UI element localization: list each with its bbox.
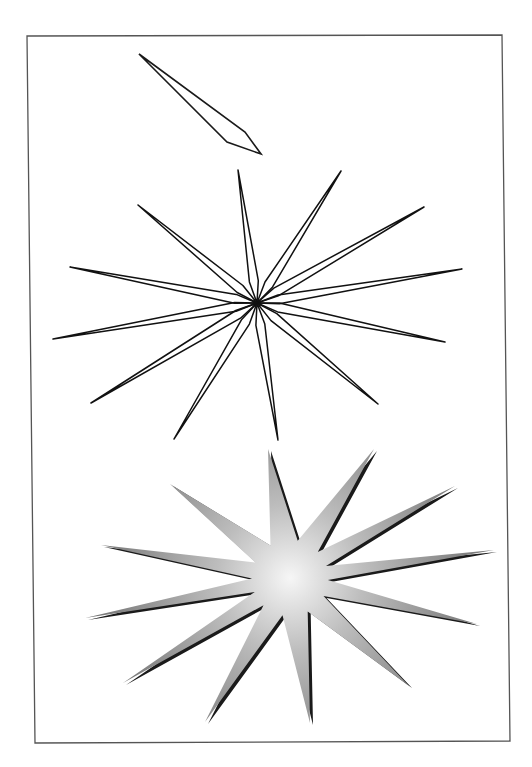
drawing-canvas xyxy=(0,0,532,767)
page-background xyxy=(0,0,532,767)
